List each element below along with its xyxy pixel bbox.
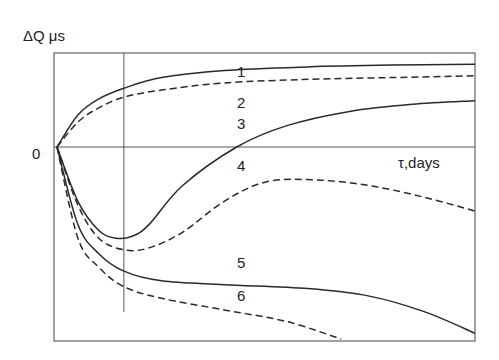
annotation-group: 123456	[237, 63, 245, 304]
series-line-2	[57, 76, 475, 147]
plot-frame	[54, 53, 475, 341]
series-label-2: 2	[237, 94, 245, 111]
x-axis-label: τ,days	[398, 154, 440, 171]
series-group	[57, 64, 475, 339]
series-label-6: 6	[237, 287, 245, 304]
series-line-6	[57, 147, 341, 339]
series-label-4: 4	[237, 157, 245, 174]
series-label-5: 5	[237, 254, 245, 271]
series-label-3: 3	[237, 115, 245, 132]
origin-label: 0	[32, 145, 40, 162]
series-line-5	[57, 147, 475, 333]
series-label-1: 1	[237, 63, 245, 80]
chart: ΔQ μs 0 τ,days 123456	[0, 0, 499, 360]
y-axis-label: ΔQ μs	[23, 27, 65, 44]
